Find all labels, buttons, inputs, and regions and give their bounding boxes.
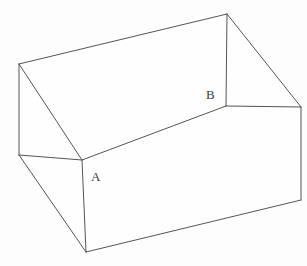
figure-canvas: A B (0, 0, 307, 266)
vertex-label-a: A (91, 169, 101, 184)
vertex-label-b: B (206, 87, 215, 102)
open-box-diagram: A B (0, 0, 307, 266)
